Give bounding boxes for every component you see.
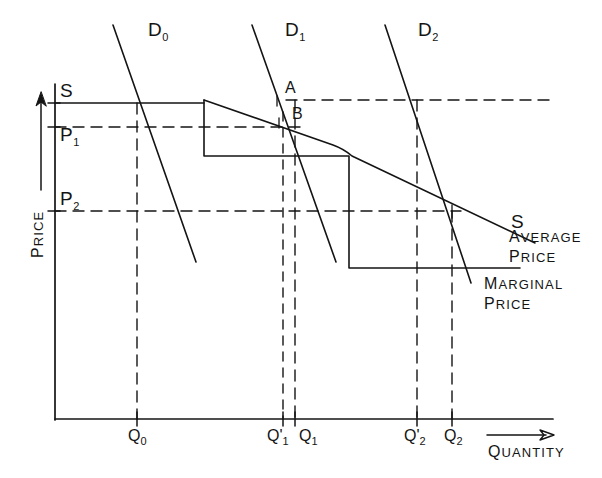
demand-label-D2-sub: 2 [432, 31, 439, 43]
marginal-price-rest1: ARGINAL [498, 277, 563, 292]
x-axis-title: QUANTITY [488, 444, 565, 460]
demand-curve-D2 [385, 25, 471, 283]
y-axis-title: PRICE [30, 211, 46, 258]
tick-label-Q2p-sub: 2 [420, 435, 426, 447]
demand-curve-D1 [252, 25, 336, 262]
demand-label-D0: D0 [148, 20, 169, 43]
marginal-price-step-curve [204, 100, 520, 268]
average-price-cap1: A [509, 228, 521, 245]
x-axis-arrow-icon [487, 430, 554, 440]
average-price-rest1: VERAGE [521, 230, 582, 245]
average-price-caption-line1: AVERAGE [509, 229, 582, 245]
demand-label-D1: D1 [285, 20, 306, 43]
y-axis-arrow-icon [36, 92, 46, 190]
price-label-P1: P1 [60, 125, 80, 148]
demand-label-D2: D2 [418, 20, 439, 43]
point-label-A: A [285, 80, 296, 96]
point-label-B: B [292, 106, 303, 122]
price-label-P1-sub: 1 [73, 136, 80, 148]
demand-label-D0-sub: 0 [162, 31, 169, 43]
demand-label-D1-main: D [285, 19, 299, 40]
tick-label-Q2-main: Q [444, 427, 456, 444]
price-label-P2-sub: 2 [73, 200, 80, 212]
marginal-price-cap1: M [484, 275, 498, 292]
average-price-caption-line2: PRICE [509, 249, 556, 265]
tick-label-Q1p-main: Q [267, 427, 279, 444]
price-label-P2-main: P [60, 188, 73, 209]
average-price-cap2: P [509, 248, 521, 265]
intersection-marks [277, 96, 452, 218]
tick-label-Q1p-sub: 1 [283, 435, 289, 447]
tick-label-Q0-main: Q [128, 427, 140, 444]
tick-label-Q1-main: Q [299, 427, 311, 444]
demand-label-D2-main: D [418, 19, 432, 40]
marginal-price-caption-line1: MARGINAL [484, 276, 563, 292]
tick-label-Q1-prime: Q'1 [267, 428, 289, 447]
x-axis-title-cap: Q [488, 443, 502, 460]
demand-curve-D0 [113, 25, 196, 262]
marginal-price-cap2: P [484, 295, 496, 312]
x-axis-title-rest: UANTITY [502, 445, 565, 460]
tick-label-Q2-sub: 2 [456, 435, 462, 447]
tick-label-Q0: Q0 [128, 428, 147, 447]
diagram-canvas: D0 D1 D2 S P1 P2 A B PRICE Q0 Q'1 Q1 Q'2… [0, 0, 602, 478]
demand-label-D0-main: D [148, 19, 162, 40]
tick-label-Q0-sub: 0 [140, 435, 146, 447]
price-label-S-main: S [60, 80, 73, 101]
price-label-P1-main: P [60, 124, 73, 145]
price-label-P2: P2 [60, 189, 80, 212]
y-axis-title-cap: P [29, 246, 46, 258]
tick-label-Q1: Q1 [299, 428, 318, 447]
marginal-price-caption-line2: PRICE [484, 296, 531, 312]
average-price-rest2: RICE [521, 250, 556, 265]
tick-label-Q1-sub: 1 [311, 435, 317, 447]
tick-label-Q2p-main: Q [404, 427, 416, 444]
demand-label-D1-sub: 1 [299, 31, 306, 43]
average-price-curve [204, 100, 535, 243]
marginal-price-rest2: RICE [496, 297, 531, 312]
y-axis-title-rest: RICE [31, 211, 46, 246]
tick-label-Q2: Q2 [444, 428, 463, 447]
tick-label-Q2-prime: Q'2 [404, 428, 426, 447]
price-label-S: S [60, 81, 73, 100]
